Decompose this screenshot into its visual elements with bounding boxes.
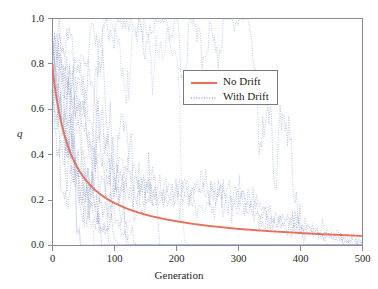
legend-swatch-dotted-line [191,90,217,102]
y-tick-label: 0.0 [18,240,44,251]
y-tick-label: 0.4 [18,150,44,161]
y-axis-title: q [17,128,23,139]
x-tick-label: 100 [99,254,130,265]
drift-replicate-line [52,92,362,245]
legend-swatch-solid-line [191,75,217,87]
y-tick-label: 0.8 [18,59,44,70]
y-tick-label: 0.2 [18,195,44,206]
legend: No Drift With Drift [183,70,278,105]
x-tick-label: 300 [223,254,254,265]
chart-plot-area [0,0,378,289]
legend-item-with-drift: With Drift [191,89,269,103]
legend-label: With Drift [223,91,269,102]
y-tick-label: 1.0 [18,14,44,25]
legend-item-no-drift: No Drift [191,74,261,88]
x-tick-label: 500 [347,254,378,265]
figure-canvas: 1.0 0.8 0.6 0.4 0.2 0.0 0 100 200 300 40… [0,0,378,289]
x-tick-label: 200 [161,254,192,265]
series-with-drift [52,19,362,245]
x-tick-label: 0 [37,254,68,265]
legend-label: No Drift [223,76,261,87]
y-axis-ticks [48,19,53,246]
y-tick-label: 0.6 [18,104,44,115]
x-tick-label: 400 [285,254,316,265]
x-axis-title: Generation [155,270,204,281]
x-axis-ticks [53,246,363,251]
